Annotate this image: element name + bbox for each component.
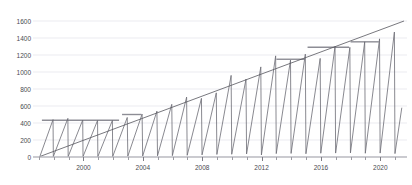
y-tick-label: 1600 bbox=[17, 18, 31, 25]
x-tick bbox=[187, 157, 188, 160]
y-tick-label: 400 bbox=[20, 120, 31, 127]
cap-level-lines bbox=[42, 42, 379, 120]
sawtooth-path bbox=[40, 32, 402, 157]
plot-area bbox=[33, 21, 407, 157]
x-tick bbox=[232, 157, 233, 160]
x-tick-label: 2016 bbox=[314, 164, 328, 171]
x-tick bbox=[306, 157, 307, 160]
x-tick bbox=[128, 157, 129, 160]
x-tick bbox=[98, 157, 99, 160]
x-tick-label: 2004 bbox=[136, 164, 150, 171]
chart-title bbox=[0, 0, 412, 5]
y-tick-label: 1000 bbox=[17, 69, 31, 76]
x-tick bbox=[113, 157, 114, 160]
x-tick bbox=[291, 157, 292, 160]
x-tick bbox=[276, 157, 277, 160]
x-tick bbox=[336, 157, 337, 160]
y-tick-label: 0 bbox=[27, 154, 31, 161]
x-tick-label: 2008 bbox=[195, 164, 209, 171]
y-tick-label: 1400 bbox=[17, 35, 31, 42]
x-tick bbox=[262, 157, 263, 161]
x-tick bbox=[39, 157, 40, 160]
x-tick bbox=[143, 157, 144, 161]
plot-svg bbox=[33, 21, 407, 157]
x-tick-label: 2020 bbox=[373, 164, 387, 171]
chart-container: 02004006008001000120014001600 2000200420… bbox=[0, 0, 412, 185]
x-tick bbox=[202, 157, 203, 161]
y-tick-label: 800 bbox=[20, 86, 31, 93]
sawtooth-series-line bbox=[40, 32, 402, 157]
x-tick bbox=[69, 157, 70, 160]
x-tick bbox=[321, 157, 322, 161]
x-tick-label: 2012 bbox=[254, 164, 268, 171]
x-tick-label: 2000 bbox=[76, 164, 90, 171]
x-tick bbox=[83, 157, 84, 161]
y-tick-label: 1200 bbox=[17, 52, 31, 59]
x-tick bbox=[54, 157, 55, 160]
y-tick-label: 600 bbox=[20, 103, 31, 110]
x-tick bbox=[247, 157, 248, 160]
y-axis: 02004006008001000120014001600 bbox=[0, 21, 31, 157]
x-tick bbox=[173, 157, 174, 160]
y-tick-label: 200 bbox=[20, 137, 31, 144]
x-axis: 200020042008201220162020 bbox=[33, 157, 407, 183]
x-tick bbox=[380, 157, 381, 161]
x-tick bbox=[365, 157, 366, 160]
x-tick bbox=[351, 157, 352, 160]
x-tick bbox=[158, 157, 159, 160]
x-tick bbox=[217, 157, 218, 160]
x-tick bbox=[395, 157, 396, 160]
